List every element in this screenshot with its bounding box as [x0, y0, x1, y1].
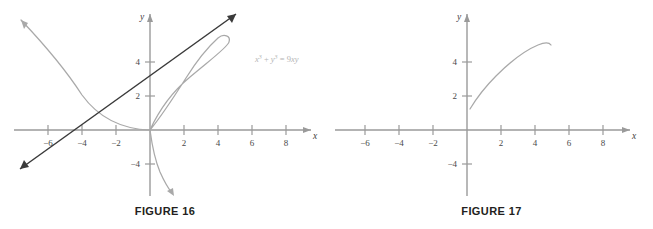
- x-tick-label--6: −6: [360, 138, 370, 148]
- y-axis-label: y: [456, 12, 462, 22]
- y-tick-label-4: 4: [136, 57, 141, 67]
- figure-16-axes: −6 −4 −2 2 4 6 8 4 2 −4 x y: [14, 12, 318, 196]
- x-tick-label-8: 8: [284, 138, 289, 148]
- figure-17-caption: FIGURE 17: [330, 205, 653, 217]
- x-axis-label: x: [312, 131, 318, 141]
- figure-17-panel: −6 −4 −2 2 4 6 8 4 2 −4 x y FIGURE 17: [330, 0, 653, 229]
- folium-upper-left-branch: [21, 20, 150, 130]
- y-tick-label-4: 4: [453, 57, 458, 67]
- y-tick-label--4: −4: [447, 159, 457, 169]
- y-tick-label-2: 2: [136, 91, 141, 101]
- x-tick-label--2: −2: [111, 138, 121, 148]
- folium-curve: [21, 20, 229, 196]
- tangent-line-segment: [20, 14, 236, 169]
- x-tick-label-2: 2: [182, 138, 187, 148]
- eq-rhs: xy: [290, 54, 299, 64]
- figure-16-panel: −6 −4 −2 2 4 6 8 4 2 −4 x y: [0, 0, 330, 229]
- eq-equals: = 9: [278, 54, 291, 64]
- x-tick-label-2: 2: [499, 138, 504, 148]
- y-tick-label--4: −4: [130, 159, 140, 169]
- x-axis-arrowhead: [303, 127, 311, 133]
- figure-17-plot: −6 −4 −2 2 4 6 8 4 2 −4 x y: [330, 0, 653, 200]
- y-axis-arrowhead: [147, 14, 153, 22]
- x-tick-label--2: −2: [428, 138, 438, 148]
- tangent-line: [20, 14, 236, 169]
- folium-upper-branch-path: [470, 43, 551, 109]
- x-tick-label-4: 4: [533, 138, 538, 148]
- folium-lower-right-arrowhead: [167, 188, 174, 196]
- x-tick-label-6: 6: [567, 138, 572, 148]
- folium-lower-right-branch: [150, 130, 172, 193]
- folium-loop: [150, 35, 229, 130]
- eq-plus: +: [262, 54, 271, 64]
- x-tick-label--4: −4: [394, 138, 404, 148]
- x-axis-arrowhead: [622, 127, 630, 133]
- upper-branch-curve: [470, 43, 551, 109]
- tangent-upper-arrowhead: [227, 14, 236, 23]
- tangent-lower-arrowhead: [20, 160, 29, 169]
- y-axis-arrowhead: [464, 14, 470, 22]
- y-tick-label-2: 2: [453, 91, 458, 101]
- x-tick-label-8: 8: [601, 138, 606, 148]
- x-tick-label-4: 4: [216, 138, 221, 148]
- y-axis-label: y: [139, 12, 145, 22]
- folium-equation-label: x3 + y3 = 9xy: [254, 54, 299, 64]
- x-tick-label--4: −4: [77, 138, 87, 148]
- x-tick-label-6: 6: [250, 138, 255, 148]
- folium-upper-left-arrowhead: [21, 20, 28, 29]
- figure-sheet: −6 −4 −2 2 4 6 8 4 2 −4 x y: [0, 0, 653, 229]
- x-axis-label: x: [631, 131, 637, 141]
- figure-16-caption: FIGURE 16: [0, 205, 330, 217]
- figure-17-axes: −6 −4 −2 2 4 6 8 4 2 −4 x y: [335, 12, 637, 196]
- figure-16-plot: −6 −4 −2 2 4 6 8 4 2 −4 x y: [0, 0, 330, 200]
